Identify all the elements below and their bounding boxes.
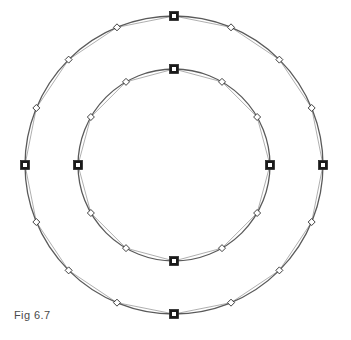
square-marker-core xyxy=(172,67,176,71)
inner-ring-polygon xyxy=(78,69,270,261)
outer-ring-markers xyxy=(21,12,328,319)
outer-ring-group xyxy=(21,12,328,319)
square-marker-core xyxy=(23,163,27,167)
diamond-marker xyxy=(113,299,120,306)
figure-container: Fig 6.7 xyxy=(0,0,351,340)
inner-ring-group xyxy=(74,65,275,266)
diamond-marker xyxy=(228,24,235,31)
diamond-marker xyxy=(308,104,315,111)
diamond-marker xyxy=(308,219,315,226)
square-marker-core xyxy=(321,163,325,167)
inner-ring-circle xyxy=(78,69,270,261)
diamond-marker xyxy=(33,104,40,111)
figure-caption: Fig 6.7 xyxy=(14,309,50,321)
square-marker-core xyxy=(172,312,176,316)
inner-ring-markers xyxy=(74,65,275,266)
square-marker-core xyxy=(172,14,176,18)
diamond-marker xyxy=(228,299,235,306)
diamond-marker xyxy=(33,219,40,226)
diamond-marker xyxy=(113,24,120,31)
concentric-rings-diagram xyxy=(0,0,351,340)
square-marker-core xyxy=(172,259,176,263)
square-marker-core xyxy=(268,163,272,167)
square-marker-core xyxy=(76,163,80,167)
